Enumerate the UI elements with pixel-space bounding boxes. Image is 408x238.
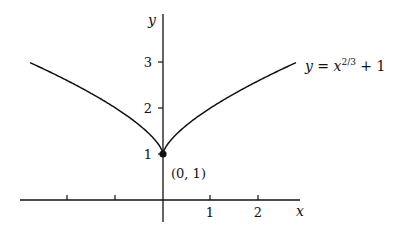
x-tick-label-1: 1 bbox=[206, 205, 214, 220]
x-tick-label-2: 2 bbox=[254, 205, 262, 220]
y-axis-label: y bbox=[147, 12, 157, 28]
y-tick-label-2: 2 bbox=[144, 101, 152, 116]
y-ticks bbox=[158, 62, 163, 154]
y-tick-label-1: 1 bbox=[144, 147, 152, 162]
curve-label-rhs: + 1 bbox=[356, 58, 386, 74]
y-tick-label-3: 3 bbox=[144, 55, 152, 70]
function-plot: 1 2 3 1 2 x y (0, 1) y = x2/3 + 1 bbox=[0, 0, 408, 238]
point-label: (0, 1) bbox=[171, 166, 206, 181]
curve-label-lhs: y = x bbox=[304, 58, 342, 74]
curve-label: y = x2/3 + 1 bbox=[304, 57, 385, 74]
point-marker bbox=[159, 150, 166, 157]
curve-label-exponent: 2/3 bbox=[341, 57, 356, 67]
x-axis-label: x bbox=[296, 203, 304, 219]
